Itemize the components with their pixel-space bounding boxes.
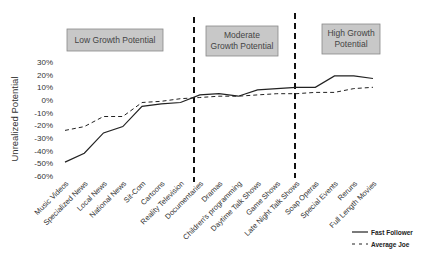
region-low-box: Low Growth Potential	[67, 29, 163, 51]
svg-text:-50%: -50%	[34, 159, 53, 168]
y-axis-label: Unrealized Potential	[9, 76, 20, 161]
svg-text:Growth Potential: Growth Potential	[211, 41, 274, 51]
svg-text:Potential: Potential	[334, 39, 367, 49]
svg-text:Average Joe: Average Joe	[371, 241, 410, 249]
svg-text:30%: 30%	[37, 58, 53, 67]
svg-text:-20%: -20%	[34, 121, 53, 130]
x-axis-ticks: Music VideosSpecialized NewsLocal NewsNa…	[33, 179, 379, 242]
svg-text:-10%: -10%	[34, 109, 53, 118]
svg-text:Moderate: Moderate	[224, 30, 260, 40]
region-high-box: High Growth Potential	[322, 24, 380, 54]
svg-text:20%: 20%	[37, 71, 53, 80]
svg-text:-60%: -60%	[34, 172, 53, 181]
svg-text:Fast Follower: Fast Follower	[371, 229, 413, 236]
svg-text:Low Growth Potential: Low Growth Potential	[75, 35, 156, 45]
svg-text:High Growth: High Growth	[327, 28, 375, 38]
series-fast-follower	[65, 76, 373, 162]
line-chart: Unrealized Potential 30%20%10%0%-10%-20%…	[0, 0, 428, 259]
svg-text:-30%: -30%	[34, 134, 53, 143]
svg-text:10%: 10%	[37, 83, 53, 92]
svg-text:-40%: -40%	[34, 147, 53, 156]
y-axis-ticks: 30%20%10%0%-10%-20%-30%-40%-50%-60%	[34, 58, 53, 181]
region-moderate-box: Moderate Growth Potential	[206, 26, 278, 56]
legend: Fast Follower Average Joe	[352, 229, 413, 249]
svg-text:0%: 0%	[41, 96, 53, 105]
